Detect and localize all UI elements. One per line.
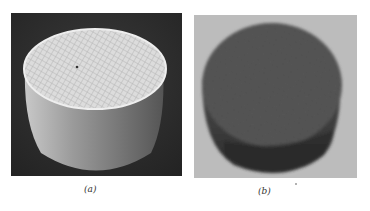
photo-panel-b bbox=[194, 15, 357, 178]
caption-b: (b) bbox=[258, 186, 271, 196]
photo-panel-a bbox=[11, 13, 182, 176]
speck-mark bbox=[295, 183, 297, 185]
white-monolith-image bbox=[11, 13, 182, 176]
dark-monolith-image bbox=[194, 15, 357, 178]
honeycomb-face bbox=[202, 23, 342, 147]
caption-a: (a) bbox=[84, 184, 96, 194]
